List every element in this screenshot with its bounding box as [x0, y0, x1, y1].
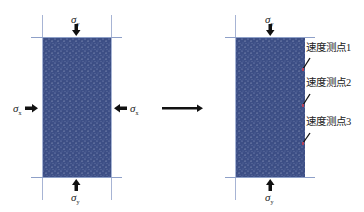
- probe-marker-1: [302, 68, 304, 71]
- probe-markers: [302, 68, 304, 145]
- up-arrow-icon: [72, 179, 81, 191]
- probe-leader-3: [303, 133, 310, 143]
- up-arrow-icon: [266, 179, 275, 191]
- probe-marker-2: [302, 104, 304, 107]
- left-arrow-icon: [114, 104, 127, 113]
- probe-leader-2: [303, 94, 310, 105]
- probe-leader-1: [303, 58, 310, 69]
- probe-marker-3: [302, 142, 304, 145]
- down-arrow-icon: [266, 24, 275, 36]
- down-arrow-icon: [72, 24, 81, 36]
- transition-arrow-icon: [162, 105, 203, 113]
- arrow-overlay: [0, 0, 364, 212]
- right-arrow-icon: [25, 104, 38, 113]
- probe-leader-lines: [303, 58, 310, 143]
